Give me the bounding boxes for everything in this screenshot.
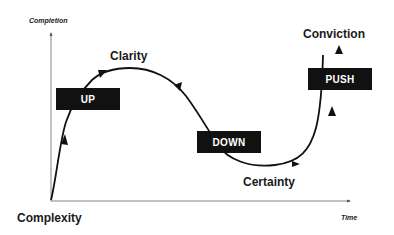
push-box: PUSH — [308, 68, 372, 90]
stage-certainty-label: Certainty — [243, 175, 295, 189]
stage-conviction-label: Conviction — [303, 27, 365, 41]
down-box: DOWN — [197, 131, 261, 153]
curve-arrow-icon — [335, 45, 343, 54]
curve-arrow-icon — [328, 106, 336, 116]
curve-arrow-icon — [292, 161, 300, 167]
curve-arrow-icon — [98, 70, 107, 78]
origin-label: Complexity — [17, 211, 82, 225]
up-box: UP — [56, 88, 120, 110]
y-axis-label: Completion — [29, 17, 68, 24]
diagram-canvas: Completion Time Complexity Clarity Certa… — [0, 0, 394, 235]
stage-clarity-label: Clarity — [110, 49, 147, 63]
x-axis-arrow-icon — [347, 200, 351, 203]
x-axis-label: Time — [341, 214, 357, 221]
y-axis-arrow-icon — [50, 32, 53, 36]
